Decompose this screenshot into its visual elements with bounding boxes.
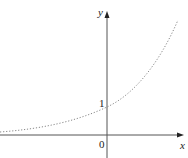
exponential-curve — [0, 20, 178, 132]
origin-label: 0 — [99, 139, 105, 150]
chart-svg — [0, 0, 188, 158]
x-axis-arrow-icon — [177, 133, 184, 138]
y-axis-arrow-icon — [105, 11, 110, 18]
y-axis-label: y — [98, 7, 103, 18]
x-axis-label: x — [180, 140, 185, 151]
y-intercept-label: 1 — [99, 98, 105, 109]
